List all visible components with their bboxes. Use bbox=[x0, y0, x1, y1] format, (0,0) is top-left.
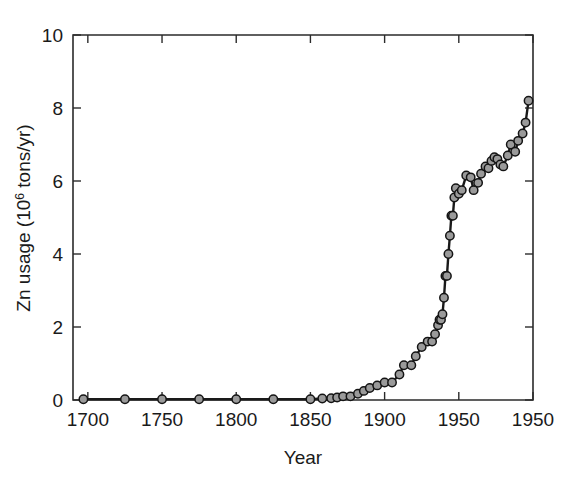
x-axis-tick-labels: 1700175018001850190019501950 bbox=[67, 409, 554, 430]
data-point-marker bbox=[474, 179, 482, 187]
data-point-marker bbox=[395, 370, 403, 378]
data-point-marker bbox=[521, 118, 529, 126]
axes-frame bbox=[73, 35, 533, 400]
zn-usage-line-chart: 0246810 1700175018001850190019501950 Yea… bbox=[0, 0, 571, 493]
x-axis-ticks bbox=[88, 35, 533, 400]
y-tick-label: 6 bbox=[52, 171, 63, 192]
x-axis-title: Year bbox=[284, 447, 323, 468]
data-point-marker bbox=[443, 272, 451, 280]
axis-frame-path bbox=[73, 35, 533, 400]
x-tick-label: 1800 bbox=[215, 409, 257, 430]
data-point-marker bbox=[438, 310, 446, 318]
data-point-marker bbox=[195, 395, 203, 403]
y-axis-title-prefix: Zn usage (10 bbox=[13, 200, 34, 312]
series-group bbox=[79, 97, 533, 404]
y-axis-tick-labels: 0246810 bbox=[42, 25, 64, 411]
data-point-marker bbox=[446, 232, 454, 240]
x-tick-label: 1950 bbox=[512, 409, 554, 430]
x-tick-label: 1950 bbox=[438, 409, 480, 430]
data-point-marker bbox=[444, 250, 452, 258]
data-point-marker bbox=[121, 395, 129, 403]
data-point-marker bbox=[269, 395, 277, 403]
y-axis-title-suffix: tons/yr) bbox=[13, 124, 34, 193]
figure-container: 0246810 1700175018001850190019501950 Yea… bbox=[0, 0, 571, 493]
data-point-marker bbox=[306, 395, 314, 403]
y-tick-label: 2 bbox=[52, 317, 63, 338]
x-tick-label: 1700 bbox=[67, 409, 109, 430]
y-axis-ticks bbox=[73, 35, 533, 400]
y-tick-label: 0 bbox=[52, 390, 63, 411]
data-point-marker bbox=[518, 129, 526, 137]
data-point-marker bbox=[440, 294, 448, 302]
data-point-marker bbox=[407, 361, 415, 369]
data-point-marker bbox=[412, 352, 420, 360]
data-point-marker bbox=[431, 330, 439, 338]
series-markers-zn-usage bbox=[79, 97, 533, 404]
x-tick-label: 1750 bbox=[141, 409, 183, 430]
data-point-marker bbox=[524, 97, 532, 105]
y-axis-title: Zn usage (106 tons/yr) bbox=[13, 124, 34, 311]
data-point-marker bbox=[79, 395, 87, 403]
x-tick-label: 1850 bbox=[289, 409, 331, 430]
data-point-marker bbox=[158, 395, 166, 403]
y-tick-label: 4 bbox=[52, 244, 63, 265]
y-tick-label: 8 bbox=[52, 98, 63, 119]
series-line-zn-usage bbox=[83, 101, 528, 400]
data-point-marker bbox=[232, 395, 240, 403]
x-tick-label: 1900 bbox=[363, 409, 405, 430]
data-point-marker bbox=[466, 173, 474, 181]
data-point-marker bbox=[449, 211, 457, 219]
data-point-marker bbox=[499, 162, 507, 170]
y-tick-label: 10 bbox=[42, 25, 63, 46]
data-point-marker bbox=[318, 394, 326, 402]
data-point-marker bbox=[511, 148, 519, 156]
data-point-marker bbox=[458, 186, 466, 194]
data-point-marker bbox=[388, 378, 396, 386]
